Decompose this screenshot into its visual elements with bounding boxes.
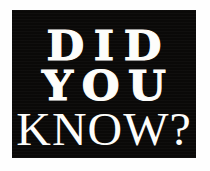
headline-line-you: YOU	[12, 66, 196, 107]
did-you-know-plaque: DID YOU KNOW?	[12, 10, 196, 158]
image-canvas: DID YOU KNOW?	[0, 0, 210, 171]
headline-line-know: KNOW?	[12, 106, 196, 153]
headline-line-did: DID	[12, 26, 196, 67]
